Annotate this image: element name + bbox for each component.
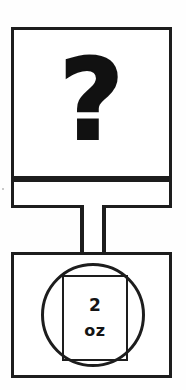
measure-sign-panel: 2 oz [11, 252, 172, 378]
figure-canvas: ? 2 oz [0, 0, 186, 390]
sign-mounting-band [11, 179, 172, 208]
measure-inner-box: 2 oz [62, 275, 128, 361]
measure-amount-value: 2 [89, 297, 101, 314]
question-mark-icon: ? [14, 30, 169, 176]
measure-unit-label: oz [84, 323, 105, 339]
scan-artifact-speck [2, 188, 4, 190]
question-sign-panel: ? [11, 27, 172, 179]
support-post [80, 205, 106, 255]
